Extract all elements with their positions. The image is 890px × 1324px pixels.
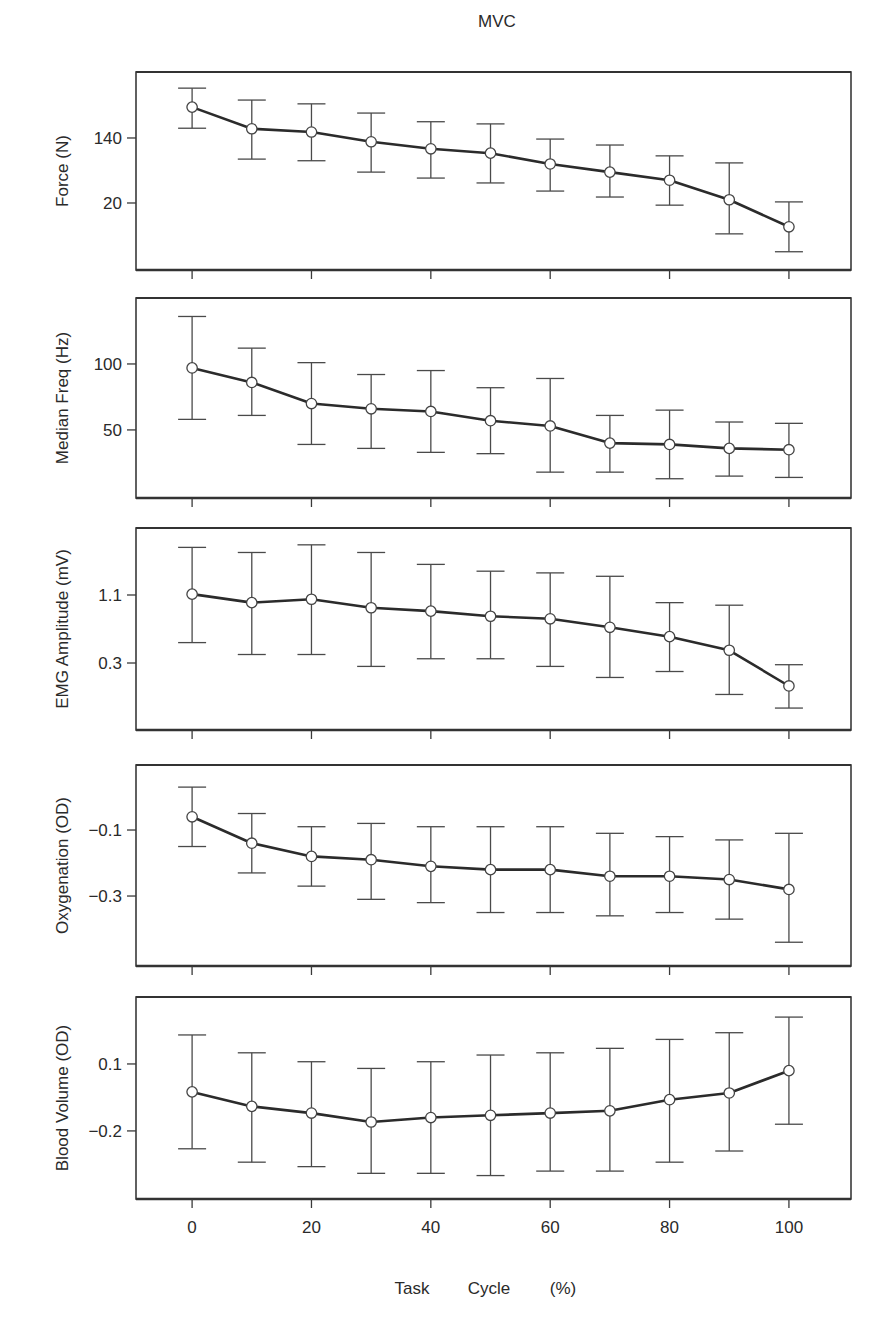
- data-point: [784, 445, 794, 455]
- data-point: [426, 1112, 436, 1122]
- data-point: [187, 102, 197, 112]
- data-point: [724, 645, 734, 655]
- data-point: [306, 398, 316, 408]
- y-tick-label: 20: [103, 194, 122, 213]
- y-tick-label: 100: [94, 355, 122, 374]
- plot-frame: [136, 298, 851, 498]
- data-point: [247, 377, 257, 387]
- y-tick-label: −0.1: [88, 821, 122, 840]
- x-tick-label: 40: [421, 1218, 440, 1237]
- y-axis-title: EMG Amplitude (mV): [53, 549, 72, 709]
- x-axis-title: Task Cycle (%): [395, 1279, 577, 1298]
- y-axis-title: Blood Volume (OD): [53, 1025, 72, 1171]
- panel-blood-volume: Blood Volume (OD)0.1−0.2: [53, 997, 851, 1208]
- panels: Force (N)14020Median Freq (Hz)10050EMG A…: [53, 72, 851, 1208]
- data-point: [545, 614, 555, 624]
- data-point: [485, 148, 495, 158]
- data-point: [306, 594, 316, 604]
- data-point: [485, 415, 495, 425]
- y-axis-title: Median Freq (Hz): [53, 332, 72, 464]
- data-point: [485, 1110, 495, 1120]
- x-tick-label: 0: [187, 1218, 196, 1237]
- data-point: [664, 1094, 674, 1104]
- data-point: [605, 871, 615, 881]
- data-point: [605, 167, 615, 177]
- data-point: [187, 1087, 197, 1097]
- data-point: [187, 812, 197, 822]
- data-point: [605, 438, 615, 448]
- panel-emg-amplitude: EMG Amplitude (mV)1.10.3: [53, 528, 851, 739]
- x-axis-title-cycle: Cycle: [468, 1279, 511, 1298]
- y-tick-label: −0.3: [88, 887, 122, 906]
- data-point: [545, 1108, 555, 1118]
- data-point: [605, 622, 615, 632]
- data-point: [306, 851, 316, 861]
- data-point: [366, 404, 376, 414]
- panel-median-freq: Median Freq (Hz)10050: [53, 298, 851, 507]
- x-tick-label: 80: [660, 1218, 679, 1237]
- data-point: [784, 681, 794, 691]
- data-point: [247, 838, 257, 848]
- data-point: [306, 127, 316, 137]
- data-point: [784, 1065, 794, 1075]
- plot-frame: [136, 997, 851, 1199]
- data-point: [664, 871, 674, 881]
- y-tick-label: 1.1: [98, 586, 122, 605]
- data-point: [366, 137, 376, 147]
- y-axis-title: Oxygenation (OD): [53, 797, 72, 934]
- plot-frame: [136, 528, 851, 730]
- y-tick-label: −0.2: [88, 1122, 122, 1141]
- data-point: [724, 874, 734, 884]
- panel-oxygenation: Oxygenation (OD)−0.1−0.3: [53, 765, 851, 975]
- data-point: [664, 439, 674, 449]
- data-point: [187, 363, 197, 373]
- data-point: [426, 861, 436, 871]
- data-point: [784, 222, 794, 232]
- data-point: [426, 406, 436, 416]
- data-point: [485, 864, 495, 874]
- x-axis-title-task: Task: [395, 1279, 430, 1298]
- data-point: [724, 1088, 734, 1098]
- data-point: [784, 884, 794, 894]
- data-point: [545, 159, 555, 169]
- data-point: [366, 855, 376, 865]
- y-axis-title: Force (N): [53, 135, 72, 207]
- multi-panel-line-chart: MVC Force (N)14020Median Freq (Hz)10050E…: [0, 0, 890, 1324]
- y-tick-label: 0.3: [98, 654, 122, 673]
- chart-title: MVC: [478, 12, 516, 31]
- data-point: [545, 421, 555, 431]
- data-point: [366, 1117, 376, 1127]
- y-tick-label: 0.1: [98, 1055, 122, 1074]
- data-point: [426, 606, 436, 616]
- data-point: [247, 124, 257, 134]
- data-point: [306, 1108, 316, 1118]
- data-point: [366, 603, 376, 613]
- data-point: [724, 195, 734, 205]
- data-point: [247, 1101, 257, 1111]
- data-point: [724, 443, 734, 453]
- data-point: [664, 175, 674, 185]
- x-tick-label: 100: [775, 1218, 803, 1237]
- data-point: [247, 597, 257, 607]
- data-point: [485, 611, 495, 621]
- x-axis: 020406080100: [187, 1218, 803, 1237]
- data-point: [545, 864, 555, 874]
- x-tick-label: 60: [541, 1218, 560, 1237]
- data-point: [664, 631, 674, 641]
- x-tick-label: 20: [302, 1218, 321, 1237]
- data-point: [187, 589, 197, 599]
- data-point: [426, 144, 436, 154]
- plot-frame: [136, 72, 851, 270]
- x-axis-title-unit: (%): [550, 1279, 576, 1298]
- data-point: [605, 1106, 615, 1116]
- panel-force: Force (N)14020: [53, 72, 851, 279]
- y-tick-label: 140: [94, 129, 122, 148]
- y-tick-label: 50: [103, 421, 122, 440]
